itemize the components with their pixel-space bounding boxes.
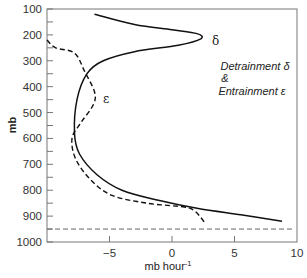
x-tick-label: −5 bbox=[103, 247, 116, 259]
annotation-line-1: Detrainment δ bbox=[220, 60, 290, 72]
annotation-line-2: & bbox=[221, 72, 228, 84]
y-axis-title: mb bbox=[6, 116, 18, 133]
y-tick-label: 700 bbox=[23, 158, 42, 170]
x-axis-ticks: −50510 bbox=[103, 236, 303, 259]
y-tick-label: 800 bbox=[23, 184, 42, 196]
x-tick-label: 10 bbox=[291, 247, 304, 259]
x-tick-label: 5 bbox=[231, 247, 237, 259]
x-tick-label: 0 bbox=[169, 247, 175, 259]
x-axis-title-main: mb hour bbox=[144, 260, 185, 272]
y-tick-label: 600 bbox=[23, 132, 42, 144]
y-tick-label: 1000 bbox=[16, 236, 42, 248]
chart-canvas: 1002003004005006007008009001000 −50510 δ… bbox=[0, 0, 307, 278]
delta-curve-label: δ bbox=[212, 34, 219, 48]
y-tick-label: 400 bbox=[23, 81, 42, 93]
x-axis-title: mb hour-1 bbox=[144, 259, 191, 272]
x-axis-title-superscript: -1 bbox=[185, 259, 192, 268]
detrainment-curve bbox=[74, 14, 282, 221]
y-tick-label: 300 bbox=[23, 55, 42, 67]
entrainment-curve bbox=[47, 40, 205, 223]
y-tick-label: 500 bbox=[23, 107, 42, 119]
y-tick-label: 200 bbox=[23, 29, 42, 41]
annotation-line-3: Entrainment ε bbox=[218, 85, 285, 97]
plot-frame bbox=[47, 9, 297, 242]
epsilon-curve-label: ε bbox=[103, 92, 109, 106]
y-tick-label: 900 bbox=[23, 210, 42, 222]
y-tick-label: 100 bbox=[23, 3, 42, 15]
